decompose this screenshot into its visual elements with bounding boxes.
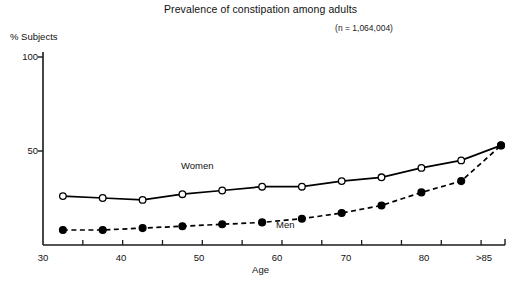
data-point-women [60,193,67,200]
data-point-women [299,183,306,190]
data-point-women [179,191,186,198]
data-point-women [458,157,465,164]
chart-container: Prevalence of constipation among adults … [0,0,521,286]
data-point-men [219,221,226,228]
data-point-women [338,178,345,185]
data-point-women [99,195,106,202]
data-point-men [418,189,425,196]
data-point-men [378,202,385,209]
plot-area [0,0,521,286]
data-point-women [418,165,425,172]
series-line-men [63,145,501,230]
data-point-women [139,197,146,204]
data-point-men [338,210,345,217]
data-point-men [60,227,67,234]
data-point-men [259,219,266,226]
data-point-men [458,178,465,185]
data-point-men [99,227,106,234]
series-line-women [63,145,501,200]
data-point-men [498,142,505,149]
data-point-men [179,223,186,230]
data-point-men [139,225,146,232]
data-point-women [259,183,266,190]
data-point-women [378,174,385,181]
data-point-men [299,215,306,222]
data-point-women [219,187,226,194]
